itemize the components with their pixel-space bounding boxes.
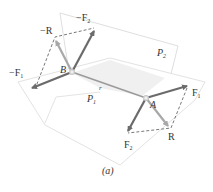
label-neg-f1: −F1 <box>9 67 23 79</box>
point-a-label: A <box>149 99 157 110</box>
point-b-label: B <box>60 64 66 75</box>
label-neg-f2: −F2 <box>76 12 90 24</box>
label-r: R <box>168 131 175 142</box>
point-b <box>69 69 75 75</box>
point-a <box>143 95 149 101</box>
couple-moment-diagram: r B A P1 P2 F1 F2 R −F1 −F2 −R (a) <box>0 0 213 192</box>
label-neg-r: −R <box>40 25 53 36</box>
position-vector-label: r <box>99 84 102 92</box>
figure-caption: (a) <box>102 165 114 177</box>
